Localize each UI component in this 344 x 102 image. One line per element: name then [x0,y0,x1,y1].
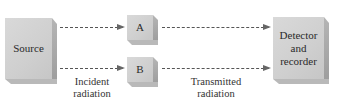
arrowhead-icon [117,65,125,71]
sample-a-face: A [127,15,153,40]
arrowhead-icon [263,24,271,30]
sample-a-side [153,15,158,40]
detector-box: Detector and recorder [273,17,329,84]
source-box: Source [5,18,57,84]
detector-label-line3: recorder [280,55,317,68]
arrowhead-icon [263,65,271,71]
source-box-side [52,18,57,79]
arrowhead-icon [117,24,125,30]
sample-b-box: B [127,57,158,87]
source-box-face: Source [5,18,52,79]
source-box-bottom [5,79,57,84]
sample-a-box: A [127,15,158,45]
transmitted-line1: Transmitted [180,76,252,88]
arrow-source-to-b [60,68,123,69]
incident-line1: Incident [62,76,122,88]
detector-label-line1: Detector [280,29,318,42]
sample-b-bottom [127,82,158,87]
sample-b-face: B [127,57,153,82]
detector-label-line2: and [291,42,307,55]
detector-box-side [324,17,329,79]
detector-box-bottom [273,79,329,84]
transmitted-radiation-label: Transmitted radiation [180,76,252,100]
sample-b-side [153,57,158,82]
incident-line2: radiation [62,88,122,100]
sample-b-label: B [136,63,143,76]
sample-a-bottom [127,40,158,45]
arrow-source-to-a [60,27,123,28]
detector-box-face: Detector and recorder [273,17,324,79]
incident-radiation-label: Incident radiation [62,76,122,100]
sample-a-label: A [136,21,144,34]
arrow-a-to-detector [162,27,269,28]
arrow-b-to-detector [162,68,269,69]
transmitted-line2: radiation [180,88,252,100]
source-label: Source [13,42,44,55]
